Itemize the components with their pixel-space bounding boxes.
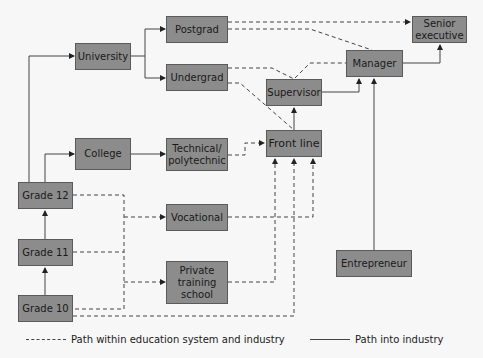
node-private-training-school: Private training school [166,261,228,304]
node-undergrad: Undergrad [166,64,228,91]
legend-solid-label: Path into industry [355,334,443,345]
node-grade-10: Grade 10 [18,295,73,322]
solid-line-swatch [310,339,350,340]
node-entrepreneur: Entrepreneur [336,250,412,277]
node-manager: Manager [346,50,403,77]
node-grade-12: Grade 12 [18,182,73,209]
node-supervisor: Supervisor [266,79,322,106]
node-university: University [75,43,131,70]
dashed-line-swatch [26,339,66,340]
legend-dashed-label: Path within education system and industr… [71,334,285,345]
node-grade-11: Grade 11 [18,239,73,266]
node-senior-executive: Senior executive [412,16,467,43]
node-front-line: Front line [266,130,322,157]
node-college: College [75,138,131,170]
node-postgrad: Postgrad [166,16,228,43]
legend-solid: Path into industry [310,334,443,345]
node-vocational: Vocational [166,204,228,231]
legend-dashed: Path within education system and industr… [26,334,285,345]
node-technical-polytechnic: Technical/ polytechnic [166,138,228,171]
